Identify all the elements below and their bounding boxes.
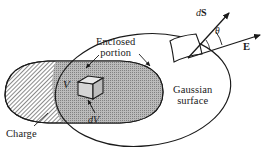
volume-element-label: dV — [88, 115, 99, 126]
area-vector-label: dS — [196, 8, 207, 19]
gaussian-surface-label-line1: Gaussian — [173, 84, 212, 95]
volume-label: V — [63, 79, 70, 91]
area-vector-label-S: S — [201, 7, 207, 18]
field-vector-label: E — [243, 41, 250, 52]
diagram-canvas — [0, 0, 269, 151]
gaussian-surface-label: Gaussian surface — [173, 84, 212, 107]
enclosed-portion-label-line2: portion — [96, 47, 135, 58]
enclosed-charge-region — [52, 55, 175, 130]
enclosed-portion-label: Enclosed portion — [96, 36, 135, 59]
enclosed-portion-label-line1: Enclosed — [96, 36, 135, 47]
charge-label: Charge — [6, 128, 37, 139]
angle-label: θ — [215, 26, 220, 36]
volume-element-cube — [78, 76, 103, 99]
gaussian-surface-label-line2: surface — [173, 95, 212, 106]
gauss-law-diagram: Enclosed portion Gaussian surface Charge… — [0, 0, 269, 151]
